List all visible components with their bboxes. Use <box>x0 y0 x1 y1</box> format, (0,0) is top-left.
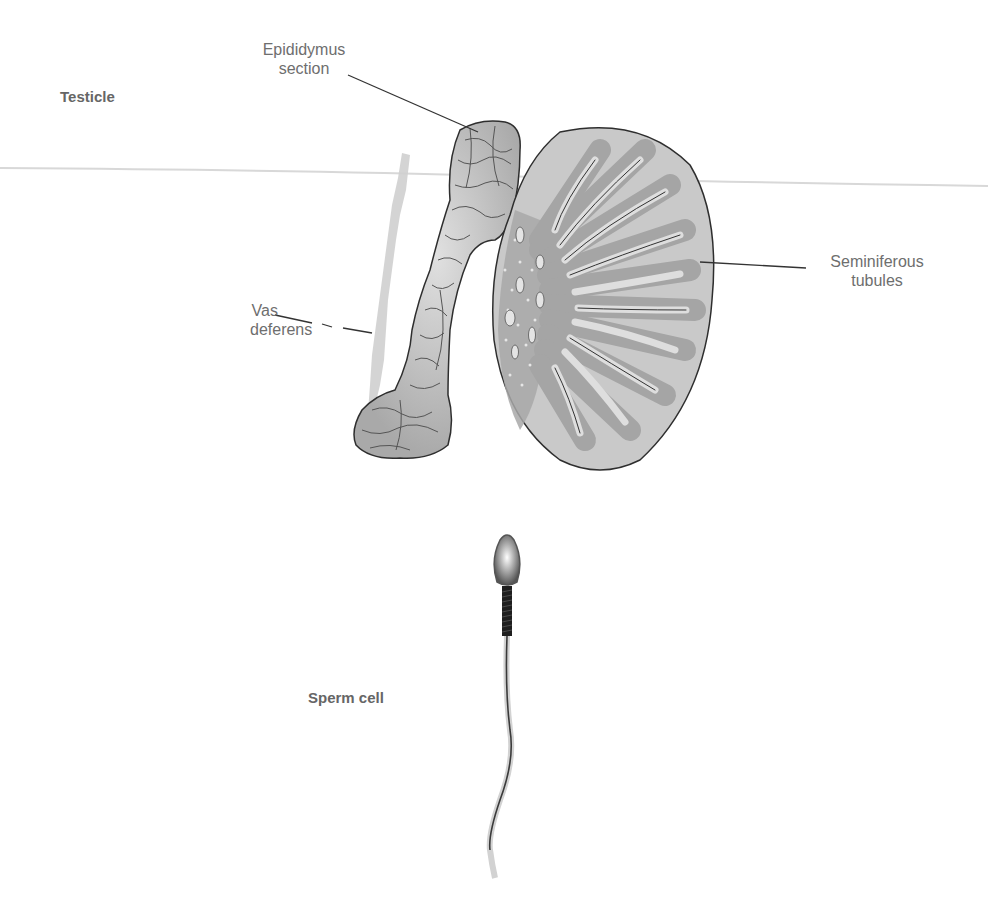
sperm-cell-title: Sperm cell <box>308 688 384 707</box>
epididymus-leader-line <box>348 75 478 132</box>
reproductive-anatomy-illustration <box>0 0 988 915</box>
testicle-title: Testicle <box>60 87 115 106</box>
testis-shape <box>493 128 714 470</box>
vas-label-line2: deferens <box>236 320 316 339</box>
epididymus-label: Epididymus section <box>244 40 364 78</box>
seminiferous-leader-line <box>700 262 806 268</box>
seminiferous-label-line2: tubules <box>808 271 946 290</box>
seminiferous-label-line1: Seminiferous <box>808 252 946 271</box>
vas-deferens-label: Vas deferens <box>236 301 316 339</box>
sperm-cell-shape <box>490 535 520 878</box>
vas-label-line1: Vas <box>236 301 316 320</box>
epididymus-label-line1: Epididymus <box>244 40 364 59</box>
seminiferous-tubules-label: Seminiferous tubules <box>808 252 946 290</box>
epididymus-label-line2: section <box>244 59 364 78</box>
